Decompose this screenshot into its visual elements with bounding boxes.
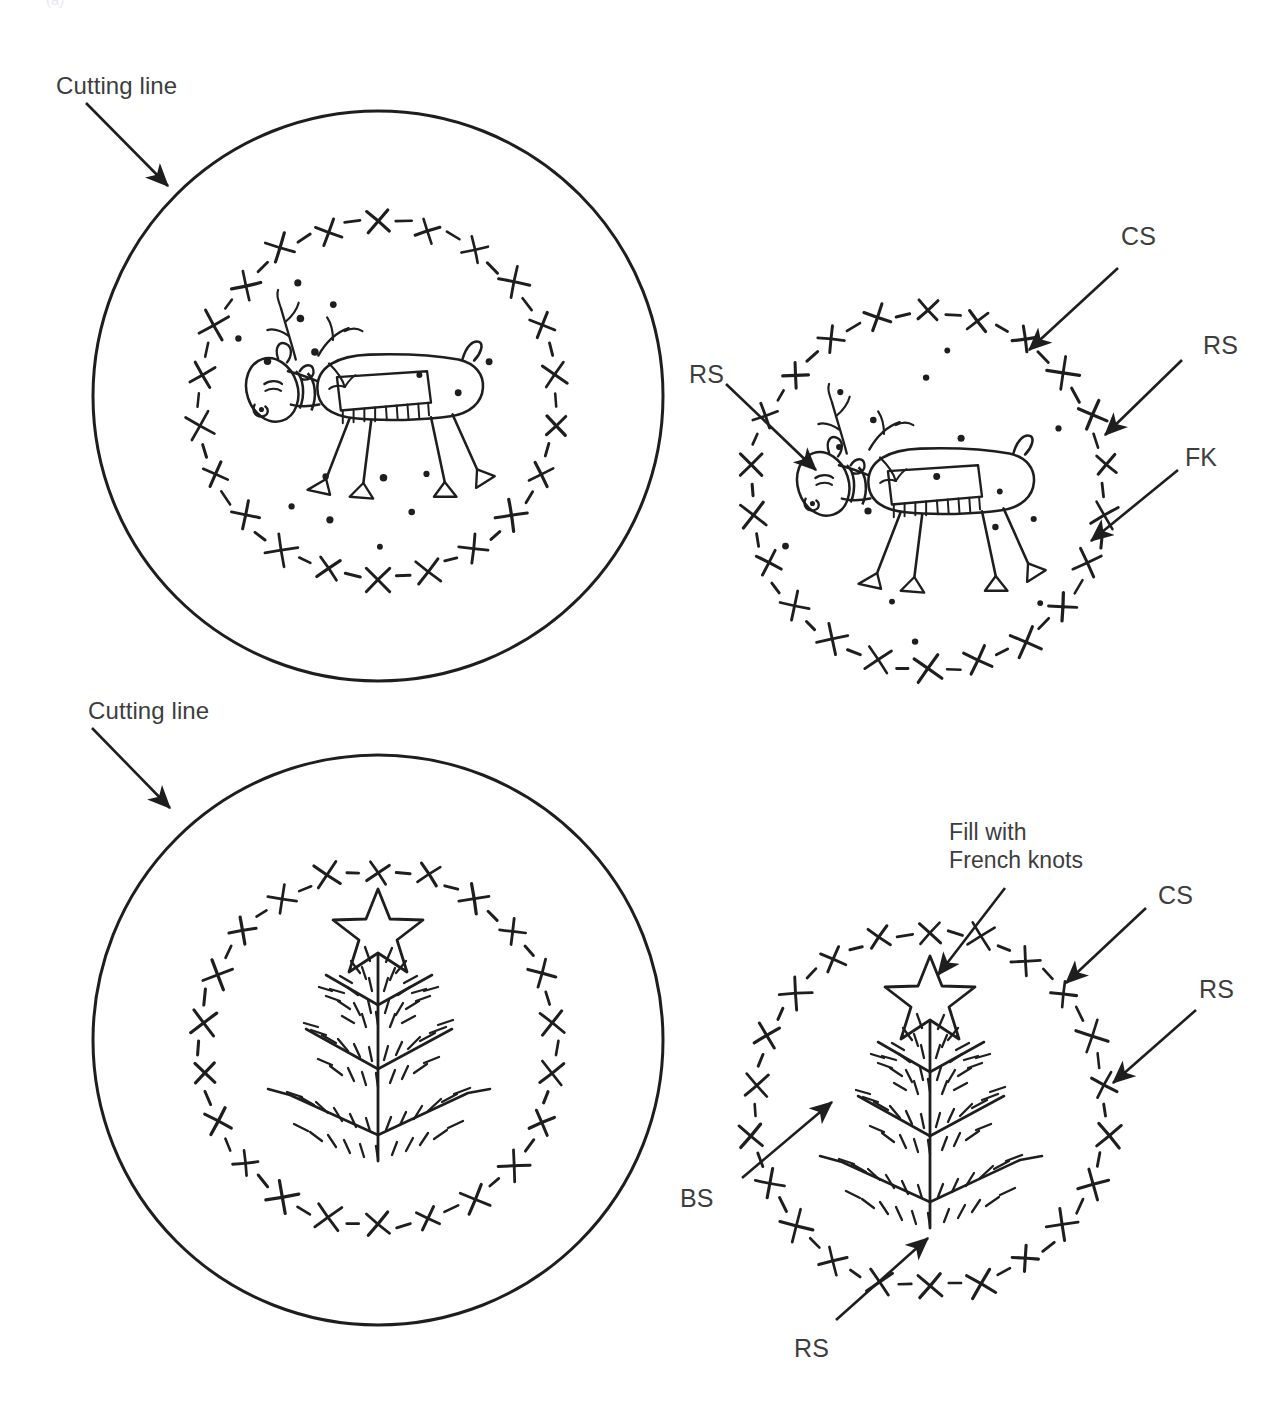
rs-arrow-top-left	[726, 384, 816, 470]
cross-stitch-mark	[268, 885, 297, 914]
cross-stitch-mark	[528, 959, 556, 987]
french-knot-dot	[870, 417, 877, 424]
cross-stitch-mark	[229, 917, 256, 944]
cross-stitch-mark	[1051, 981, 1077, 1007]
stitch-dash-mark	[1043, 969, 1052, 979]
cross-stitch-circle-top-left	[186, 210, 568, 592]
french-knot-dot	[423, 471, 429, 477]
stitch-dash-mark	[998, 946, 1009, 950]
cross-stitch-mark	[186, 411, 215, 440]
cross-stitch-mark	[1097, 1123, 1122, 1148]
stitch-dash-mark	[445, 558, 457, 561]
stitch-dash-mark	[1072, 388, 1080, 402]
cross-stitch-mark	[1078, 400, 1107, 429]
stitch-dash-mark	[298, 234, 310, 242]
cross-stitch-mark	[918, 1274, 942, 1298]
cross-stitch-mark	[967, 1269, 996, 1298]
french-knot-dot	[486, 358, 493, 365]
cross-stitch-mark	[739, 1124, 762, 1147]
french-knot-dot	[944, 348, 950, 354]
cross-stitch-mark	[818, 326, 845, 353]
stitch-dash-mark	[523, 298, 532, 310]
stitch-dash-mark	[397, 1224, 411, 1228]
panel-top-right	[726, 268, 1182, 682]
stitch-dash-mark	[345, 220, 360, 222]
cross-stitch-mark	[1012, 1245, 1038, 1271]
cross-stitch-mark	[191, 1010, 217, 1036]
cross-stitch-mark	[265, 534, 298, 567]
cross-stitch-mark	[783, 362, 809, 388]
cutting-line-arrow-bottom	[92, 728, 170, 808]
cross-stitch-mark	[755, 1169, 784, 1198]
cross-stitch-mark	[740, 454, 761, 475]
cross-stitch-mark	[754, 1023, 779, 1048]
cross-stitch-mark	[499, 266, 530, 297]
french-knot-dot	[923, 374, 929, 380]
cross-stitch-mark	[753, 403, 778, 428]
stitch-dash-mark	[947, 669, 960, 670]
stitch-dash-mark	[258, 262, 268, 271]
stitch-dash-mark	[345, 573, 360, 577]
stitch-dash-mark	[447, 232, 460, 240]
label-fk-top: FK	[1185, 443, 1217, 473]
french-knot-dot	[864, 507, 871, 514]
stitch-dash-mark	[752, 484, 753, 495]
stitch-dash-mark	[810, 1238, 819, 1247]
label-cs-bottom: CS	[1158, 881, 1193, 911]
stitch-dash-mark	[998, 1268, 1010, 1275]
cross-stitch-mark	[1078, 1169, 1109, 1200]
stitch-dash-mark	[1094, 434, 1099, 448]
french-knot-dot	[1055, 425, 1061, 431]
cross-stitch-mark	[919, 923, 940, 944]
french-knot-dot	[380, 474, 388, 482]
stitch-dash-mark	[545, 443, 549, 456]
stitch-dash-mark	[299, 558, 310, 563]
cross-stitch-mark	[1046, 1209, 1078, 1241]
french-knot-dot	[326, 516, 333, 523]
cross-stitch-mark	[232, 271, 261, 300]
cross-stitch-mark	[529, 462, 553, 486]
cross-stitch-mark	[745, 1074, 768, 1097]
cross-stitch-mark	[540, 1011, 564, 1035]
french-knot-dot	[288, 503, 294, 509]
cross-stitch-mark	[203, 960, 233, 990]
cutting-line-arrow-top	[86, 103, 168, 186]
stitch-dash-mark	[807, 352, 818, 362]
stitch-dash-mark	[1043, 1242, 1055, 1251]
stitch-dash-mark	[807, 969, 816, 978]
stitch-dash-mark	[226, 946, 232, 958]
cross-stitch-mark	[529, 1110, 554, 1135]
label-fill-french-knots-line1: Fill with	[949, 819, 1027, 846]
cross-stitch-mark	[367, 862, 390, 885]
cross-stitch-mark	[817, 623, 848, 654]
stitch-dash-mark	[205, 343, 208, 357]
stitch-dash-mark	[197, 393, 198, 407]
rs-arrow-top-right	[1105, 360, 1182, 435]
french-knot-dot	[455, 389, 462, 396]
rs-arrow-bottom-right	[1113, 1010, 1196, 1083]
stitch-dash-mark	[203, 445, 207, 458]
stitch-dash-mark	[488, 911, 497, 920]
tree-motif-bottom-left	[268, 889, 490, 1161]
cross-stitch-mark	[205, 1108, 232, 1135]
cross-stitch-mark	[233, 1150, 258, 1175]
stitch-dash-mark	[946, 315, 961, 316]
stitch-dash-mark	[1102, 483, 1104, 497]
cs-arrow-top	[1029, 268, 1118, 350]
cross-stitch-mark	[1010, 627, 1041, 658]
cross-stitch-mark	[418, 863, 441, 886]
label-rs-top-right: RS	[1203, 331, 1238, 361]
label-cutting-line-bottom: Cutting line	[88, 697, 209, 725]
cross-stitch-mark	[1012, 326, 1038, 352]
stitch-dash-mark	[1076, 1007, 1083, 1021]
cross-stitch-mark	[195, 1063, 215, 1083]
cross-stitch-mark	[317, 557, 340, 580]
french-knot-dot	[297, 315, 305, 323]
cross-stitch-mark	[460, 1184, 490, 1214]
stitch-dash-mark	[1098, 1053, 1100, 1068]
cross-stitch-mark	[190, 362, 215, 387]
stitch-dash-mark	[205, 1091, 211, 1104]
cross-stitch-mark	[756, 550, 781, 575]
stitch-dash-mark	[850, 947, 862, 950]
stitch-dash-mark	[847, 323, 860, 331]
